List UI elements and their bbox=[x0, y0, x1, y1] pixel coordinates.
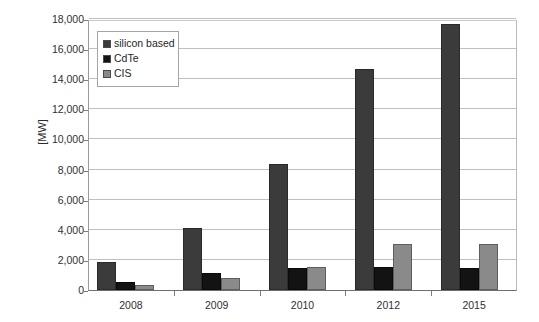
bar bbox=[183, 228, 202, 290]
bar bbox=[393, 244, 412, 290]
bar-chart-figure: [MW] 02,0004,0006,0008,00010,00012,00014… bbox=[0, 0, 539, 322]
legend-item: CIS bbox=[103, 66, 173, 81]
x-axis-tick-mark bbox=[260, 291, 261, 296]
y-axis-tick-label: 16,000 bbox=[24, 43, 84, 55]
legend-swatch-icon bbox=[103, 55, 111, 63]
bar bbox=[460, 268, 479, 290]
chart-legend: silicon basedCdTeCIS bbox=[97, 31, 179, 87]
legend-label: CIS bbox=[114, 68, 132, 79]
x-axis-tick-label: 2008 bbox=[96, 299, 166, 311]
y-axis-tick-label: 14,000 bbox=[24, 73, 84, 85]
x-axis-tick-mark bbox=[345, 291, 346, 296]
bar-group bbox=[269, 21, 326, 290]
legend-item: silicon based bbox=[103, 36, 173, 51]
x-axis-tick-label: 2015 bbox=[439, 299, 509, 311]
legend-label: silicon based bbox=[114, 38, 175, 49]
bar bbox=[116, 282, 135, 290]
bar bbox=[135, 285, 154, 290]
x-axis-tick-label: 2010 bbox=[268, 299, 338, 311]
bar bbox=[307, 267, 326, 290]
x-axis-tick-mark bbox=[431, 291, 432, 296]
x-axis-tick-mark bbox=[174, 291, 175, 296]
y-axis-tick-label: 0 bbox=[24, 284, 84, 296]
legend-label: CdTe bbox=[114, 53, 139, 64]
bar bbox=[374, 267, 393, 290]
legend-swatch-icon bbox=[103, 40, 111, 48]
bar bbox=[441, 24, 460, 290]
y-axis-tick-label: 2,000 bbox=[24, 254, 84, 266]
bar-group bbox=[441, 21, 498, 290]
y-axis-tick-label: 18,000 bbox=[24, 13, 84, 25]
bar bbox=[221, 278, 240, 290]
bar bbox=[202, 273, 221, 290]
y-axis-tick-label: 8,000 bbox=[24, 164, 84, 176]
y-axis-tick-mark bbox=[83, 291, 88, 292]
y-axis-tick-label: 10,000 bbox=[24, 133, 84, 145]
legend-item: CdTe bbox=[103, 51, 173, 66]
bar-group bbox=[183, 21, 240, 290]
x-axis-tick-label: 2012 bbox=[353, 299, 423, 311]
gridline bbox=[89, 18, 516, 19]
bar bbox=[97, 262, 116, 290]
legend-swatch-icon bbox=[103, 70, 111, 78]
y-axis-tick-label: 4,000 bbox=[24, 224, 84, 236]
y-axis-tick-label: 12,000 bbox=[24, 103, 84, 115]
bar bbox=[269, 164, 288, 290]
y-axis-tick-label: 6,000 bbox=[24, 194, 84, 206]
bar bbox=[479, 244, 498, 290]
bar-group bbox=[355, 21, 412, 290]
bar bbox=[355, 69, 374, 290]
x-axis-tick-label: 2009 bbox=[182, 299, 252, 311]
bar bbox=[288, 268, 307, 290]
